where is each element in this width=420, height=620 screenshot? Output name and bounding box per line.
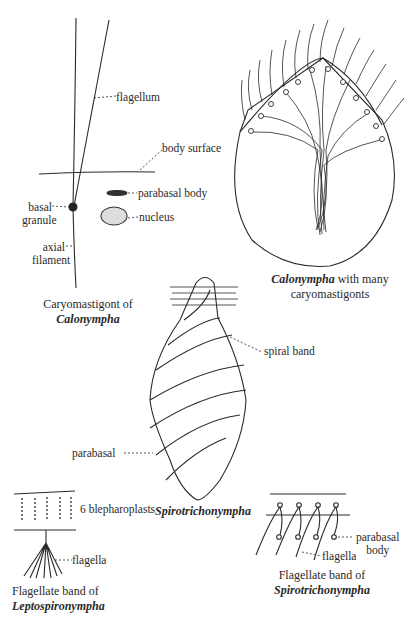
caption-caryomastigont: Caryomastigont of Calonympha — [38, 297, 138, 327]
label-axial: axial — [30, 241, 65, 254]
caption-calonympha: Calonympha with many caryomastigonts — [255, 272, 405, 302]
caption-leptospironympha-band: Flagellate band of Leptospironympha — [12, 584, 105, 614]
label-parabasal-body: parabasal body — [138, 187, 207, 200]
caption-caryomastigont-species: Calonympha — [38, 312, 138, 327]
caption-calonympha-rest: with many — [335, 272, 389, 286]
calonympha-drawing — [235, 20, 404, 266]
spirotrichonympha-drawing — [124, 278, 262, 501]
label-filament: filament — [32, 254, 70, 267]
label-spiral-band: spiral band — [264, 345, 315, 358]
label-parabasal-band-2: body — [356, 544, 399, 557]
label-parabasal: parabasal — [72, 447, 115, 460]
label-basal-granule: basal — [18, 201, 52, 214]
caption-spiro-band-line1: Flagellate band of — [252, 568, 392, 583]
caption-caryomastigont-line1: Caryomastigont of — [38, 297, 138, 312]
caption-lepto-species: Leptospironympha — [12, 599, 105, 614]
label-nucleus: nucleus — [139, 211, 174, 224]
leptospironympha-band-drawing — [14, 491, 76, 578]
label-6-blepharoplasts: 6 blepharoplasts — [80, 503, 155, 516]
label-parabasal-body-band: parabasal body — [356, 531, 399, 557]
caption-spirotrichonympha: Spirotrichonympha — [138, 504, 268, 519]
caption-calonympha-species: Calonympha — [271, 272, 334, 286]
label-granule: granule — [22, 214, 56, 227]
caption-spirotrichonympha-band: Flagellate band of Spirotrichonympha — [252, 568, 392, 598]
caption-lepto-line1: Flagellate band of — [12, 584, 105, 599]
label-flagella-lepto: flagella — [72, 554, 106, 567]
label-flagella-spiro: flagella — [322, 550, 356, 563]
caption-calonympha-line2: caryomastigonts — [255, 287, 405, 302]
caption-spiro-band-species: Spirotrichonympha — [252, 583, 392, 598]
label-body-surface: body surface — [162, 142, 221, 155]
label-basal: basal — [18, 201, 52, 214]
label-flagellum: flagellum — [116, 91, 160, 104]
label-parabasal-band-1: parabasal — [356, 531, 399, 544]
